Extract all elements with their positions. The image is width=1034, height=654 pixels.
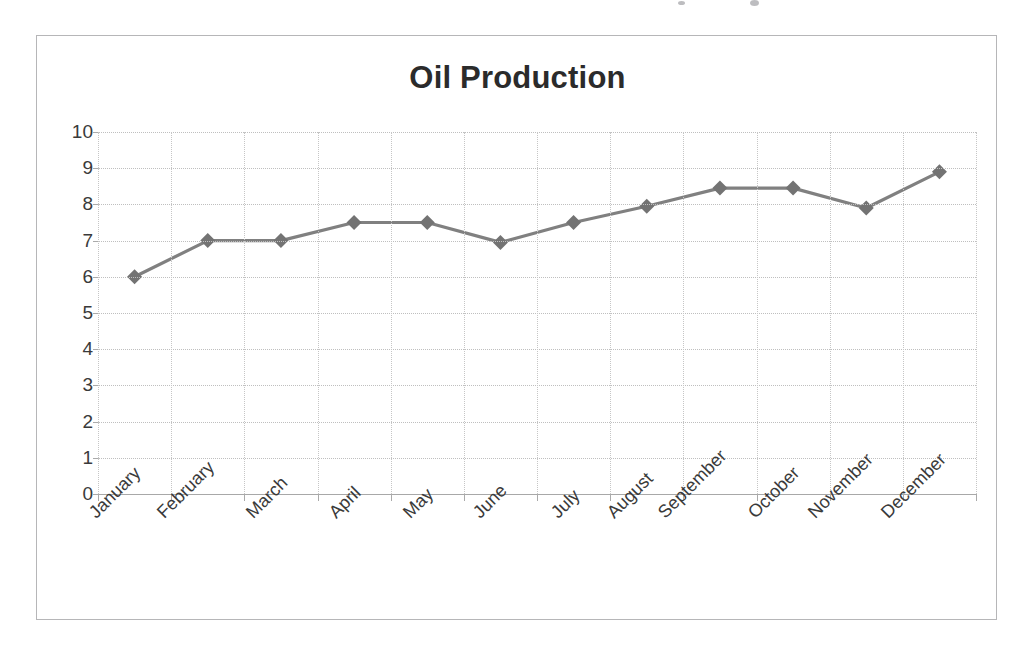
gridline-x (391, 132, 392, 494)
gridline-x (610, 132, 611, 494)
gridline-x (976, 132, 977, 494)
y-axis-tick-label: 1 (51, 447, 93, 469)
gridline-x (244, 132, 245, 494)
x-tick (244, 494, 245, 501)
gridline-x (683, 132, 684, 494)
y-axis-tick-label: 8 (51, 193, 93, 215)
gridline-x (318, 132, 319, 494)
data-point-marker (420, 215, 435, 230)
data-point-marker (859, 201, 874, 216)
y-axis-tick-label: 10 (51, 121, 93, 143)
gridline-x (464, 132, 465, 494)
x-tick (318, 494, 319, 501)
x-axis-labels: JanuaryFebruaryMarchAprilMayJuneJulyAugu… (98, 502, 976, 612)
y-axis-tick-label: 6 (51, 266, 93, 288)
gridline-x (903, 132, 904, 494)
x-tick (464, 494, 465, 501)
chart-container: Oil Production 109876543210 JanuaryFebru… (36, 35, 997, 620)
x-tick (391, 494, 392, 501)
top-edge-artifact (0, 0, 1034, 14)
gridline-x (171, 132, 172, 494)
x-tick (976, 494, 977, 501)
y-axis-tick-label: 2 (51, 411, 93, 433)
chart-title: Oil Production (37, 60, 998, 96)
data-point-marker (347, 215, 362, 230)
data-point-marker (786, 181, 801, 196)
y-axis-tick-label: 5 (51, 302, 93, 324)
y-axis-tick-label: 9 (51, 157, 93, 179)
gridline-x (537, 132, 538, 494)
y-axis-tick-label: 4 (51, 338, 93, 360)
gridline-x (757, 132, 758, 494)
data-point-marker (493, 235, 508, 250)
data-point-marker (932, 164, 947, 179)
y-axis-tick-label: 3 (51, 374, 93, 396)
data-point-marker (639, 199, 654, 214)
gridline-x (830, 132, 831, 494)
y-axis-tick-label: 0 (51, 483, 93, 505)
x-tick (537, 494, 538, 501)
plot-area (98, 132, 976, 494)
y-axis-labels: 109876543210 (45, 132, 93, 494)
data-point-marker (566, 215, 581, 230)
gridline-x (98, 132, 99, 494)
data-point-marker (712, 181, 727, 196)
y-axis-tick-label: 7 (51, 230, 93, 252)
